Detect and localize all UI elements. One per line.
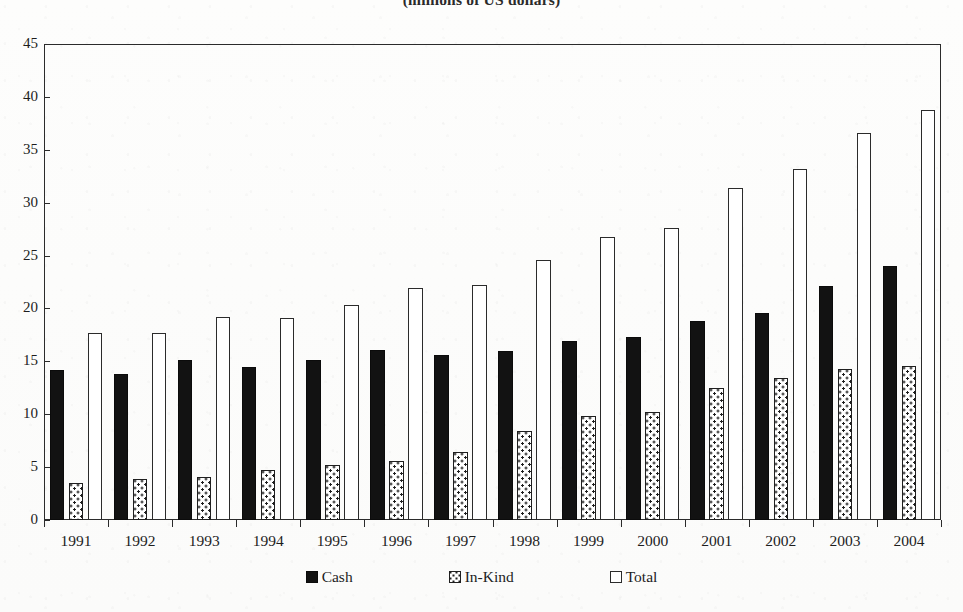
solid-black-swatch-icon: [306, 571, 318, 583]
bar-cash-1996: [370, 350, 385, 520]
bar-cash-1991: [50, 370, 65, 520]
bar-total-2004: [921, 110, 936, 520]
y-axis-tick-label: 35: [4, 142, 38, 157]
bar-in-kind-1998: [517, 431, 532, 520]
x-axis-tick-label: 2000: [621, 532, 685, 550]
bar-in-kind-1999: [581, 416, 596, 520]
bar-total-1995: [344, 305, 359, 520]
bar-in-kind-1997: [453, 452, 468, 520]
bar-cash-1992: [114, 374, 129, 520]
x-axis-tick-label: 1995: [300, 532, 364, 550]
bar-total-1994: [280, 318, 295, 520]
bar-total-1999: [600, 237, 615, 520]
bar-group: [685, 44, 749, 520]
x-axis-tick-mark: [236, 520, 237, 527]
y-axis-tick-label: 5: [4, 459, 38, 474]
legend-item-in-kind[interactable]: In-Kind: [449, 568, 514, 586]
x-axis-tick-mark: [44, 520, 45, 527]
y-axis-tick-label: 45: [4, 36, 38, 51]
x-axis-tick-label: 1996: [364, 532, 428, 550]
x-axis-tick-mark: [749, 520, 750, 527]
bar-total-1998: [536, 260, 551, 520]
legend-item-total[interactable]: Total: [610, 568, 658, 586]
bar-group: [428, 44, 492, 520]
y-axis-labels: 051015202530354045: [0, 0, 38, 612]
bar-in-kind-1995: [325, 465, 340, 520]
bar-group: [749, 44, 813, 520]
bar-in-kind-2003: [838, 369, 853, 520]
bar-total-1991: [88, 333, 103, 520]
x-axis-tick-label: 1999: [557, 532, 621, 550]
open-white-swatch-icon: [610, 571, 622, 583]
x-axis-tick-mark: [172, 520, 173, 527]
bar-in-kind-2002: [774, 378, 789, 520]
y-axis-tick-label: 15: [4, 353, 38, 368]
bar-group: [557, 44, 621, 520]
bar-cash-2002: [755, 313, 770, 520]
bar-in-kind-1996: [389, 461, 404, 520]
bar-total-1993: [216, 317, 231, 520]
bar-cash-2004: [883, 266, 898, 520]
bar-total-1996: [408, 288, 423, 520]
x-axis-tick-label: 2001: [685, 532, 749, 550]
y-axis-tick-label: 40: [4, 89, 38, 104]
bar-cash-1994: [242, 367, 257, 520]
bar-group: [364, 44, 428, 520]
bar-group: [813, 44, 877, 520]
y-axis-tick-label: 10: [4, 406, 38, 421]
bar-chart: 051015202530354045 199119921993199419951…: [0, 0, 963, 612]
x-axis-tick-mark: [877, 520, 878, 527]
bar-cash-1998: [498, 351, 513, 520]
x-axis-tick-label: 1998: [493, 532, 557, 550]
bar-in-kind-2000: [645, 412, 660, 520]
bar-group: [236, 44, 300, 520]
y-axis-tick-label: 30: [4, 195, 38, 210]
chart-legend: CashIn-KindTotal: [0, 568, 963, 586]
bar-cash-1993: [178, 360, 193, 520]
legend-label: In-Kind: [465, 568, 514, 586]
bar-total-2001: [728, 188, 743, 520]
x-axis-tick-label: 1997: [428, 532, 492, 550]
bar-in-kind-2001: [709, 388, 724, 520]
bar-total-2002: [793, 169, 808, 520]
bar-group: [877, 44, 941, 520]
bar-total-2000: [664, 228, 679, 520]
bar-group: [493, 44, 557, 520]
dotted-swatch-icon: [449, 571, 461, 583]
x-axis-tick-label: 1991: [44, 532, 108, 550]
bar-group: [172, 44, 236, 520]
bar-cash-1997: [434, 355, 449, 520]
bar-in-kind-1991: [69, 483, 84, 520]
bar-total-2003: [857, 133, 872, 520]
bar-cash-1995: [306, 360, 321, 520]
x-axis-tick-label: 2004: [877, 532, 941, 550]
x-axis-tick-mark: [428, 520, 429, 527]
x-axis-tick-label: 1993: [172, 532, 236, 550]
bar-group: [300, 44, 364, 520]
x-axis-tick-mark: [621, 520, 622, 527]
legend-label: Total: [626, 568, 658, 586]
x-axis-tick-mark: [108, 520, 109, 527]
x-axis-tick-mark: [493, 520, 494, 527]
legend-label: Cash: [322, 568, 353, 586]
legend-item-cash[interactable]: Cash: [306, 568, 353, 586]
bar-total-1992: [152, 333, 167, 520]
bar-in-kind-1993: [197, 477, 212, 520]
x-axis-tick-label: 1992: [108, 532, 172, 550]
bar-cash-2001: [690, 321, 705, 520]
x-axis-tick-label: 1994: [236, 532, 300, 550]
x-axis-tick-mark: [300, 520, 301, 527]
bar-group: [108, 44, 172, 520]
x-axis-tick-mark: [364, 520, 365, 527]
x-axis-tick-mark: [557, 520, 558, 527]
bar-cash-2000: [626, 337, 641, 520]
bar-cash-2003: [819, 286, 834, 520]
y-axis-tick-label: 25: [4, 248, 38, 263]
bars-layer: [44, 44, 941, 520]
bar-in-kind-2004: [902, 366, 917, 520]
bar-group: [621, 44, 685, 520]
bar-in-kind-1994: [261, 470, 276, 520]
x-axis-tick-label: 2002: [749, 532, 813, 550]
y-axis-tick-label: 0: [4, 512, 38, 527]
x-axis-tick-label: 2003: [813, 532, 877, 550]
